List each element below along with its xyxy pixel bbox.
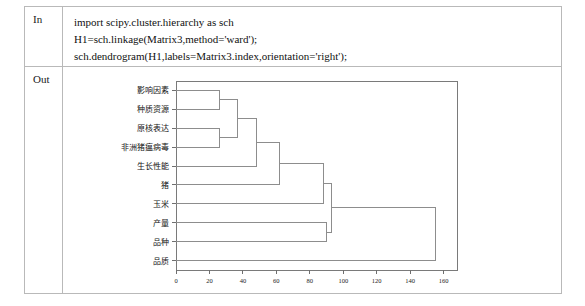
leaf-label: 非洲猪瘟病毒 xyxy=(121,142,169,152)
notebook-input-row: In import scipy.cluster.hierarchy as sch… xyxy=(25,7,561,67)
dendrogram-svg: 影响因素种质资源原核表达非洲猪瘟病毒生长性能猪玉米产量品种品质020406080… xyxy=(87,75,487,287)
leaf-label: 品种 xyxy=(153,237,169,247)
code-line-1: import scipy.cluster.hierarchy as sch xyxy=(74,14,561,31)
x-tick-label: 80 xyxy=(307,277,314,284)
dendrogram-link xyxy=(323,184,331,232)
leaf-label: 生长性能 xyxy=(137,161,169,171)
leaf-label: 玉米 xyxy=(153,199,169,209)
dendrogram-figure: 影响因素种质资源原核表达非洲猪瘟病毒生长性能猪玉米产量品种品质020406080… xyxy=(63,67,561,293)
x-tick-label: 160 xyxy=(439,277,449,284)
output-gutter-label: Out xyxy=(25,67,63,293)
x-tick-label: 100 xyxy=(338,277,348,284)
leaf-label: 原核表达 xyxy=(137,123,169,133)
screenshot-root: In import scipy.cluster.hierarchy as sch… xyxy=(0,0,585,306)
dendrogram-link xyxy=(176,90,219,109)
input-gutter-label: In xyxy=(25,7,63,66)
dendrogram-plot: 影响因素种质资源原核表达非洲猪瘟病毒生长性能猪玉米产量品种品质020406080… xyxy=(87,75,487,287)
dendrogram-link xyxy=(176,223,327,242)
leaf-label: 种质资源 xyxy=(137,104,169,114)
dendrogram-link xyxy=(219,100,237,138)
notebook-table: In import scipy.cluster.hierarchy as sch… xyxy=(24,6,562,294)
leaf-label: 品质 xyxy=(153,256,169,266)
dendrogram-link xyxy=(176,164,323,204)
code-line-2: H1=sch.linkage(Matrix3,method='ward'); xyxy=(74,31,561,48)
x-tick-label: 0 xyxy=(174,277,177,284)
output-cell: 影响因素种质资源原核表达非洲猪瘟病毒生长性能猪玉米产量品种品质020406080… xyxy=(63,67,561,293)
leaf-label: 产量 xyxy=(153,218,169,228)
x-tick-label: 120 xyxy=(372,277,382,284)
dendrogram-link xyxy=(176,128,219,147)
x-tick-label: 40 xyxy=(240,277,247,284)
x-tick-label: 140 xyxy=(405,277,415,284)
dendrogram-link xyxy=(176,119,256,166)
dendrogram-link xyxy=(176,142,280,185)
code-cell[interactable]: import scipy.cluster.hierarchy as sch H1… xyxy=(63,7,561,66)
x-tick-label: 20 xyxy=(206,277,213,284)
leaf-label: 影响因素 xyxy=(137,85,169,95)
leaf-label: 猪 xyxy=(161,180,169,190)
dendrogram-link xyxy=(176,208,435,261)
x-tick-label: 60 xyxy=(273,277,280,284)
code-line-3: sch.dendrogram(H1,labels=Matrix3.index,o… xyxy=(74,48,561,65)
notebook-output-row: Out 影响因素种质资源原核表达非洲猪瘟病毒生长性能猪玉米产量品种品质02040… xyxy=(25,67,561,293)
